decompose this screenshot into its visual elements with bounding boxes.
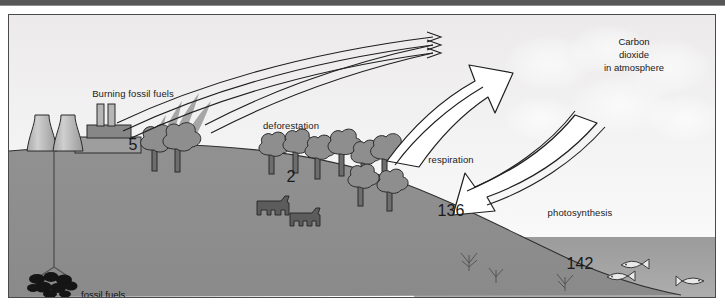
- label-fossil-fuels-reservoir: fossil fuels: [81, 289, 125, 298]
- label-deforestation-name: deforestation: [235, 121, 347, 132]
- label-carbon-dioxide-in-atmosphere: Carbon dioxide in atmosphere: [574, 35, 694, 74]
- label-photosynthesis-name: photosynthesis: [521, 208, 639, 219]
- carbon-cycle-figure: Burning fossil fuels 5 deforestation 2 r…: [8, 14, 716, 298]
- label-respiration-value: 136: [401, 202, 501, 220]
- label-deforestation: deforestation 2: [235, 85, 347, 222]
- label-photosynthesis-value: 142: [521, 255, 639, 273]
- label-burning-fossil-fuels-value: 5: [71, 136, 195, 154]
- page-top-rule: [0, 0, 725, 6]
- label-burning-fossil-fuels: Burning fossil fuels 5: [71, 53, 195, 190]
- label-photosynthesis: photosynthesis 142: [521, 172, 639, 298]
- figure-page: Burning fossil fuels 5 deforestation 2 r…: [0, 0, 725, 306]
- label-respiration: respiration 136: [401, 119, 501, 256]
- label-co2-line1: Carbon: [618, 36, 649, 47]
- label-deforestation-value: 2: [235, 168, 347, 186]
- label-co2-line2: dioxide: [619, 49, 649, 60]
- label-co2-line3: in atmosphere: [604, 62, 664, 73]
- label-respiration-name: respiration: [401, 155, 501, 166]
- label-burning-fossil-fuels-name: Burning fossil fuels: [71, 89, 195, 100]
